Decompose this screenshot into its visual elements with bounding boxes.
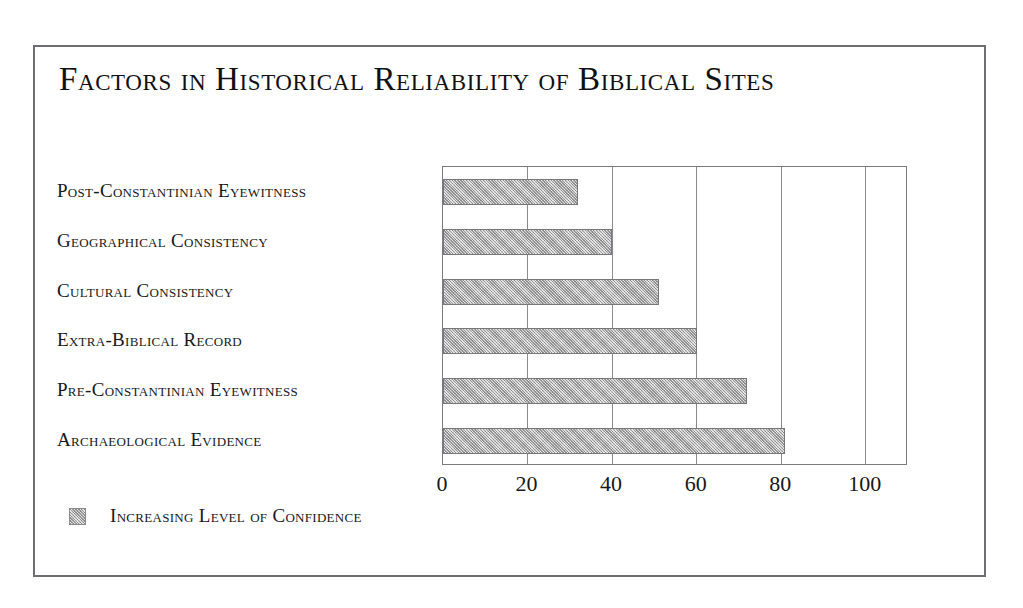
- legend-swatch-icon: [69, 508, 86, 525]
- category-label: Pre-Constantinian Eyewitness: [57, 379, 437, 401]
- plot-area: [442, 166, 907, 465]
- bar-row: [443, 428, 906, 454]
- category-label: Post-Constantinian Eyewitness: [57, 180, 437, 202]
- x-tick-label-0: 0: [437, 471, 448, 497]
- category-label: Cultural Consistency: [57, 280, 437, 302]
- x-tick-label-60: 60: [685, 471, 707, 497]
- x-tick-label-40: 40: [600, 471, 622, 497]
- x-tick-label-80: 80: [769, 471, 791, 497]
- gridline-100: [865, 167, 866, 464]
- bar-row: [443, 328, 906, 354]
- bar: [443, 279, 659, 305]
- category-label: Extra-Biblical Record: [57, 329, 437, 351]
- bar: [443, 179, 578, 205]
- bar: [443, 229, 612, 255]
- bar: [443, 328, 697, 354]
- bar: [443, 428, 785, 454]
- chart-figure-frame: Factors in Historical Reliability of Bib…: [33, 45, 986, 577]
- chart-legend: Increasing Level of Confidence: [69, 505, 362, 527]
- x-tick-label-100: 100: [848, 471, 881, 497]
- bar-row: [443, 179, 906, 205]
- gridline-40: [612, 167, 613, 464]
- x-tick-label-20: 20: [516, 471, 538, 497]
- gridline-60: [696, 167, 697, 464]
- gridline-20: [527, 167, 528, 464]
- bar: [443, 378, 747, 404]
- category-label: Archaeological Evidence: [57, 429, 437, 451]
- category-label: Geographical Consistency: [57, 230, 437, 252]
- bar-row: [443, 279, 906, 305]
- chart-title: Factors in Historical Reliability of Bib…: [59, 59, 959, 99]
- legend-label: Increasing Level of Confidence: [110, 505, 362, 527]
- gridline-80: [781, 167, 782, 464]
- bar-row: [443, 229, 906, 255]
- bar-row: [443, 378, 906, 404]
